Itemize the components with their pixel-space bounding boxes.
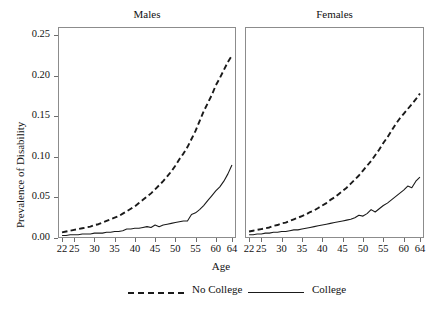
x-tick-mark (343, 238, 344, 242)
y-tick-label: 0.10 (4, 150, 50, 161)
x-tick-mark (94, 238, 95, 242)
x-tick-mark (302, 238, 303, 242)
y-tick-mark (54, 238, 58, 239)
x-tick-mark (196, 238, 197, 242)
chart-legend: No College College (0, 283, 442, 305)
y-tick-label: 0.15 (4, 109, 50, 120)
plot-lines-females (0, 0, 442, 312)
x-tick-mark (261, 238, 262, 242)
legend-swatch-dashed (128, 292, 184, 294)
x-tick-mark (420, 238, 421, 242)
x-tick-mark (363, 238, 364, 242)
y-tick-mark (54, 116, 58, 117)
legend-label-college: College (312, 283, 346, 295)
y-tick-mark (54, 157, 58, 158)
x-tick-mark (282, 238, 283, 242)
legend-item-college: College (248, 283, 388, 303)
y-tick-mark (54, 35, 58, 36)
x-tick-label: 64 (406, 243, 434, 254)
y-tick-label: 0.20 (4, 69, 50, 80)
x-tick-mark (322, 238, 323, 242)
disability-prevalence-figure: Males Females Prevalence of Disability A… (0, 0, 442, 312)
x-tick-mark (383, 238, 384, 242)
x-tick-mark (249, 238, 250, 242)
x-tick-mark (135, 238, 136, 242)
x-tick-mark (74, 238, 75, 242)
x-tick-mark (216, 238, 217, 242)
x-tick-mark (155, 238, 156, 242)
x-tick-mark (232, 238, 233, 242)
legend-label-no-college: No College (192, 283, 242, 295)
legend-item-no-college: No College (128, 283, 268, 303)
y-tick-label: 0.25 (4, 28, 50, 39)
y-tick-label: 0.05 (4, 190, 50, 201)
series-line-no-college (249, 94, 420, 232)
x-tick-mark (175, 238, 176, 242)
x-tick-mark (62, 238, 63, 242)
legend-swatch-solid (248, 292, 304, 293)
x-tick-mark (115, 238, 116, 242)
x-tick-mark (404, 238, 405, 242)
y-tick-mark (54, 76, 58, 77)
y-tick-mark (54, 197, 58, 198)
y-tick-label: 0.00 (4, 231, 50, 242)
